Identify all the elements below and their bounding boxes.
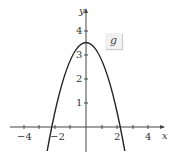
y-tick-label: 1: [76, 98, 82, 108]
x-tick-label: −2: [50, 132, 65, 142]
y-tick-label: 4: [76, 26, 82, 36]
x-tick-label: 2: [114, 132, 120, 142]
y-tick-label: 3: [76, 50, 82, 60]
x-tick-label: −4: [17, 132, 32, 142]
y-tick-label: 2: [76, 74, 82, 84]
y-axis-label: y: [79, 6, 85, 16]
x-tick-label: 4: [145, 132, 151, 142]
x-axis-label: x: [162, 131, 168, 141]
chart: y x −4 −2 2 4 1 2 3 4 g: [0, 0, 173, 160]
curve-label: g: [105, 33, 122, 49]
